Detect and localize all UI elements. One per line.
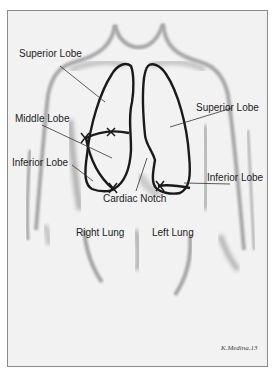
artist-signature: K.Medina.13 xyxy=(221,344,258,352)
label-superior-lobe-left: Superior Lobe xyxy=(196,102,259,113)
label-inferior-lobe-left: Inferior Lobe xyxy=(207,172,263,183)
label-right-lung: Right Lung xyxy=(76,227,124,238)
label-cardiac-notch: Cardiac Notch xyxy=(103,193,166,204)
label-superior-lobe-right: Superior Lobe xyxy=(19,48,82,59)
label-left-lung: Left Lung xyxy=(152,227,194,238)
label-inferior-lobe-right: Inferior Lobe xyxy=(12,157,68,168)
right-lung-outline xyxy=(85,64,133,191)
label-middle-lobe: Middle Lobe xyxy=(15,113,69,124)
left-lung-outline xyxy=(143,64,190,193)
